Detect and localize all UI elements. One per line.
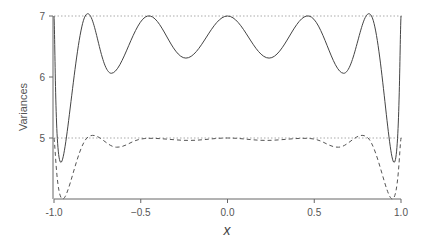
series-dashed-line [54,135,401,199]
x-tick-label: 1.0 [394,207,408,218]
x-axis-title: x [223,222,232,238]
series-solid-line [54,14,401,163]
y-axis-title: Variances [17,82,29,131]
x-tick-label: 0.0 [221,207,235,218]
x-axis: -1.0−0.50.00.51.0 [45,199,408,218]
variance-chart: 567 -1.0−0.50.00.51.0 Variances x [0,0,424,245]
x-tick-label: −0.5 [131,207,151,218]
y-tick-label: 5 [39,133,45,144]
x-tick-label: 0.5 [307,207,321,218]
plot-series [54,14,401,199]
x-tick-label: -1.0 [45,207,63,218]
y-tick-label: 6 [39,72,45,83]
reference-lines [54,16,402,138]
y-axis: 567 [39,11,53,199]
y-tick-label: 7 [39,11,45,22]
